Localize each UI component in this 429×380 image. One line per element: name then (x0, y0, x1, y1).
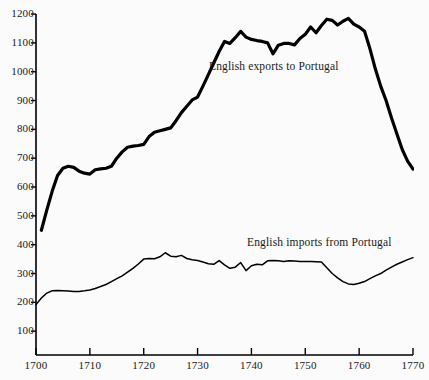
y-axis-tick-label: 1000 (0, 65, 34, 77)
x-axis-tick-label: 1700 (16, 359, 56, 371)
y-axis-tick-label: 100 (0, 324, 34, 336)
y-axis-tick-label: 400 (0, 238, 34, 250)
x-axis-tick-label: 1720 (124, 359, 164, 371)
y-axis-tick-label: 500 (0, 209, 34, 221)
x-axis-ticks (36, 348, 413, 355)
x-axis-tick-label: 1770 (393, 359, 429, 371)
series-line-exports (41, 18, 413, 230)
imports-series-label: English imports from Portugal (247, 236, 392, 248)
y-axis-tick-label: 1200 (0, 7, 34, 19)
y-axis-tick-label: 600 (0, 180, 34, 192)
y-axis-tick-label: 700 (0, 151, 34, 163)
x-axis-tick-label: 1740 (231, 359, 271, 371)
series-line-imports (36, 253, 413, 305)
y-axis-tick-label: 300 (0, 267, 34, 279)
y-axis-tick-label: 1100 (0, 36, 34, 48)
y-axis-tick-label: 200 (0, 295, 34, 307)
x-axis-tick-label: 1750 (285, 359, 325, 371)
y-axis-tick-label: 900 (0, 94, 34, 106)
exports-series-label: English exports to Portugal (209, 60, 339, 72)
x-axis-tick-label: 1760 (339, 359, 379, 371)
y-axis-tick-label: 800 (0, 122, 34, 134)
x-axis-tick-label: 1710 (70, 359, 110, 371)
x-axis-tick-label: 1730 (178, 359, 218, 371)
